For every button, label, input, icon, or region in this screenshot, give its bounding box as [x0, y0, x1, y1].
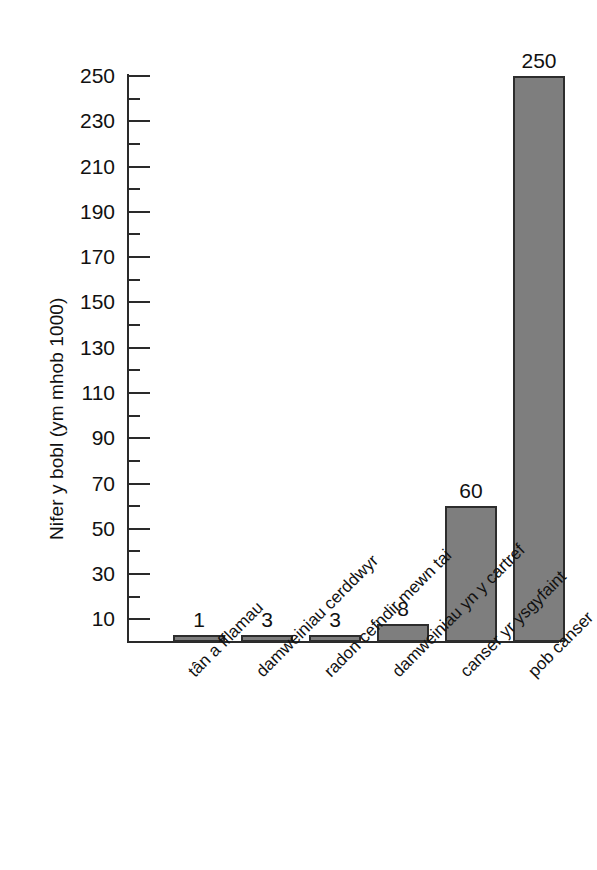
y-tick-major — [129, 437, 150, 439]
y-tick-minor — [129, 596, 140, 598]
y-tick-label: 210 — [31, 156, 115, 177]
y-tick-major — [129, 347, 150, 349]
y-tick-label: 10 — [31, 608, 115, 629]
y-tick-minor — [129, 415, 140, 417]
y-tick-major — [129, 120, 150, 122]
y-tick-label: 230 — [31, 110, 115, 131]
y-axis-line — [127, 74, 129, 643]
y-tick-minor — [129, 369, 140, 371]
y-tick-label: 130 — [31, 337, 115, 358]
y-tick-minor — [129, 233, 140, 235]
y-tick-label: 250 — [31, 65, 115, 86]
y-tick-label: 110 — [31, 382, 115, 403]
y-tick-major — [129, 166, 150, 168]
y-tick-minor — [129, 324, 140, 326]
y-tick-major — [129, 618, 150, 620]
y-tick-minor — [129, 279, 140, 281]
y-tick-label: 190 — [31, 201, 115, 222]
y-tick-label: 170 — [31, 246, 115, 267]
y-tick-major — [129, 75, 150, 77]
y-tick-minor — [129, 188, 140, 190]
bar-value-label: 60 — [431, 480, 511, 501]
y-tick-major — [129, 211, 150, 213]
y-tick-minor — [129, 505, 140, 507]
y-tick-label: 150 — [31, 291, 115, 312]
y-tick-minor — [129, 98, 140, 100]
y-tick-label: 70 — [31, 473, 115, 494]
y-tick-minor — [129, 550, 140, 552]
y-tick-label: 50 — [31, 518, 115, 539]
y-tick-major — [129, 301, 150, 303]
bar-value-label: 250 — [499, 50, 579, 71]
y-tick-label: 30 — [31, 563, 115, 584]
y-tick-major — [129, 392, 150, 394]
y-tick-label: 90 — [31, 427, 115, 448]
y-tick-major — [129, 528, 150, 530]
y-tick-major — [129, 256, 150, 258]
y-tick-minor — [129, 460, 140, 462]
y-tick-major — [129, 573, 150, 575]
y-tick-minor — [129, 143, 140, 145]
y-tick-major — [129, 483, 150, 485]
